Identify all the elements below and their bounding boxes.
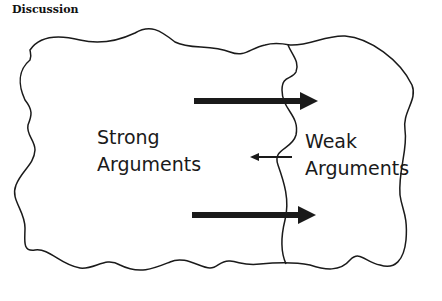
top-arrow [194,92,318,110]
bottom-arrow [192,206,316,224]
strong-line2: Arguments [97,151,201,178]
weak-arguments-label: Weak Arguments [305,128,409,182]
weak-line1: Weak [305,128,409,155]
region-divider [277,45,297,264]
middle-arrow [250,153,292,161]
weak-line2: Arguments [305,155,409,182]
strong-line1: Strong [97,124,201,151]
strong-arguments-label: Strong Arguments [97,124,201,178]
